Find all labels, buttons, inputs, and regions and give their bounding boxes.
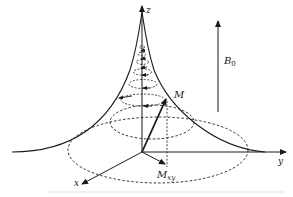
x-axis-label: x (74, 178, 79, 188)
mid-precession-ellipse (110, 105, 194, 139)
transverse-vector (142, 152, 165, 164)
x-axis (82, 152, 142, 184)
z-axis-label: z (145, 5, 151, 15)
magnetization-label: M (173, 89, 185, 100)
precession-arrows (119, 50, 152, 106)
b0-label: B0 (223, 55, 236, 68)
y-axis-label: y (277, 156, 284, 166)
caption-line (48, 191, 285, 193)
clipped-caption-remnant (0, 188, 293, 197)
b0-label-sub: 0 (231, 60, 235, 68)
transverse-label-sub: xy (167, 174, 176, 182)
magnetization-relaxation-diagram: z y x M Mxy B0 (0, 0, 293, 197)
magnetization-vector (142, 99, 166, 152)
b0-label-main: B (223, 55, 231, 66)
transverse-label: Mxy (156, 169, 176, 182)
transverse-label-main: M (156, 169, 168, 180)
envelope-curve (12, 12, 265, 152)
